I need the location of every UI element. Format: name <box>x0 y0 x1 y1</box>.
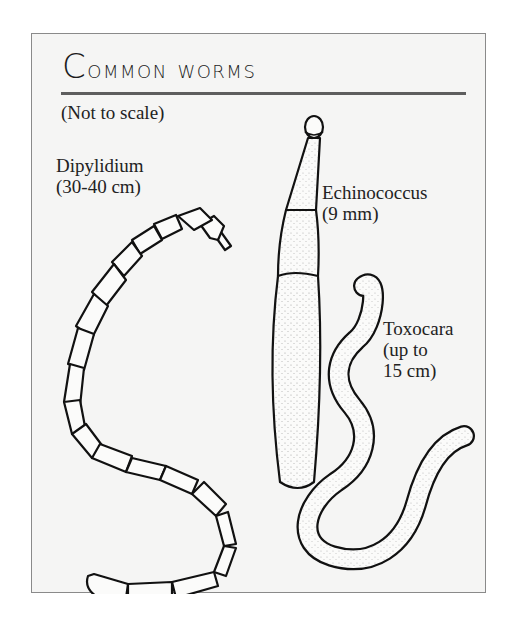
worms-figure-panel: Common worms (Not to scale) <box>31 33 486 593</box>
cropped-text-fragment <box>0 0 511 6</box>
label-toxocara: Toxocara (up to 15 cm) <box>383 318 453 381</box>
label-echinococcus: Echinococcus (9 mm) <box>322 182 428 224</box>
echinococcus-illustration <box>272 116 323 488</box>
worm-illustrations <box>32 34 487 594</box>
label-dipylidium: Dipylidium (30-40 cm) <box>56 155 144 197</box>
dipylidium-illustration <box>64 208 236 594</box>
